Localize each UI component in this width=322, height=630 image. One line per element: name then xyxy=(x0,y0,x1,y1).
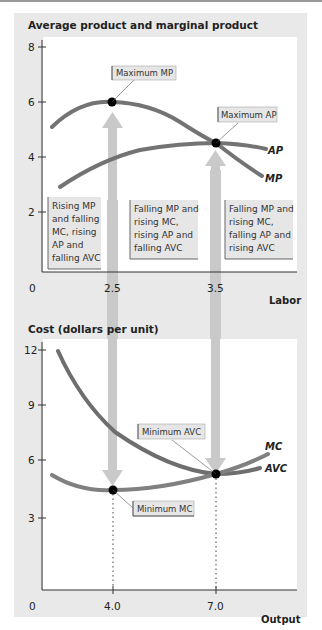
svg-text:rising MC,: rising MC, xyxy=(134,217,179,227)
top-chart-title: Average product and marginal product xyxy=(28,19,258,31)
max-mp-callout: Maximum MP xyxy=(112,66,176,80)
svg-text:Rising MP: Rising MP xyxy=(52,201,96,211)
svg-text:Falling MP and: Falling MP and xyxy=(134,204,199,214)
min-avc-callout: Minimum AVC xyxy=(138,424,205,439)
max-ap-callout: Maximum AP xyxy=(218,107,277,122)
svg-text:rising AVC: rising AVC xyxy=(229,243,275,253)
svg-text:AP and: AP and xyxy=(52,240,83,250)
bottom-chart-title: Cost (dollars per unit) xyxy=(28,323,159,335)
top-y-tick-8: 8 xyxy=(28,41,35,53)
top-x-tick-3-5: 3.5 xyxy=(207,282,224,294)
svg-text:and falling: and falling xyxy=(52,214,99,224)
region-box-2: Falling MP and rising MC, rising AP and … xyxy=(130,200,199,259)
svg-text:Maximum MP: Maximum MP xyxy=(116,68,173,78)
svg-text:Minimum AVC: Minimum AVC xyxy=(142,427,201,437)
bottom-origin-label: 0 xyxy=(29,600,36,612)
min-mc-callout: Minimum MC xyxy=(133,501,194,516)
bottom-x-tick-4-0: 4.0 xyxy=(104,600,121,612)
svg-text:falling AP and: falling AP and xyxy=(229,230,291,240)
svg-text:rising AP and: rising AP and xyxy=(134,230,193,240)
bottom-y-tick-12: 12 xyxy=(24,344,37,356)
svg-text:rising MC,: rising MC, xyxy=(229,217,274,227)
svg-text:Maximum AP: Maximum AP xyxy=(221,110,277,120)
svg-text:falling AVC: falling AVC xyxy=(134,243,183,253)
top-y-tick-4: 4 xyxy=(28,151,35,163)
bottom-x-axis-label: Output xyxy=(261,614,301,625)
bottom-y-tick-9: 9 xyxy=(28,399,35,411)
chart-canvas: Average product and marginal product 8 6… xyxy=(0,0,322,630)
avc-curve-label: AVC xyxy=(264,463,288,474)
ap-curve-label: AP xyxy=(267,145,284,156)
bottom-x-tick-7-0: 7.0 xyxy=(207,600,224,612)
mp-curve-label: MP xyxy=(265,173,283,184)
region-box-3: Falling MP and rising MC, falling AP and… xyxy=(225,200,294,259)
top-y-tick-6: 6 xyxy=(28,96,35,108)
top-x-tick-2-5: 2.5 xyxy=(104,282,121,294)
svg-text:Falling MP and: Falling MP and xyxy=(229,204,294,214)
svg-text:MC, rising: MC, rising xyxy=(52,227,97,237)
region-box-1: Rising MP and falling MC, rising AP and … xyxy=(48,197,101,269)
top-y-tick-2: 2 xyxy=(28,206,35,218)
mc-curve-label: MC xyxy=(265,441,283,452)
svg-text:falling AVC: falling AVC xyxy=(52,253,101,263)
top-origin-label: 0 xyxy=(29,282,36,294)
bottom-y-tick-6: 6 xyxy=(28,454,35,466)
svg-text:Minimum MC: Minimum MC xyxy=(137,504,192,514)
bottom-y-tick-3: 3 xyxy=(28,512,35,524)
top-x-axis-label: Labor xyxy=(269,295,301,306)
